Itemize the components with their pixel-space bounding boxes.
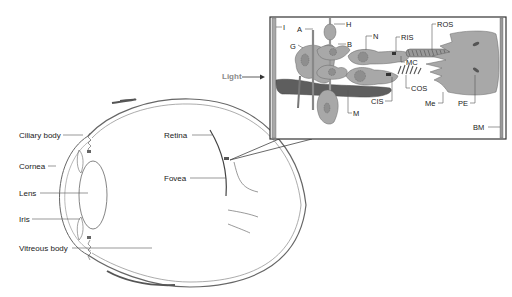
label-retina: Retina [164,131,188,140]
label-pe: PE [458,99,468,108]
label-vitreous-body: Vitreous body [19,244,68,253]
arrow-right-icon [260,75,265,80]
label-bm: BM [473,123,484,132]
eye-cross-section [60,99,307,287]
label-a: A [297,25,302,34]
label-light: Light [222,72,242,81]
label-cis: CIS [371,97,384,106]
label-cornea: Cornea [19,162,46,171]
label-iris: Iris [19,215,30,224]
retina-inset [270,17,506,139]
label-ris: RIS [401,33,414,42]
label-mc: MC [406,58,418,67]
label-i: I [283,23,285,32]
eye-label-leaders [32,135,226,248]
label-m: M [353,109,359,118]
label-lens: Lens [19,189,36,198]
label-ros: ROS [437,20,453,29]
label-b: B [347,40,352,49]
label-cos: COS [411,84,427,93]
label-me: Me [425,99,435,108]
callout-pointer [230,139,312,160]
eye-diagram: Ciliary body Cornea Lens Iris Vitreous b… [0,0,512,297]
label-ciliary-body: Ciliary body [19,131,61,140]
label-n: N [373,32,378,41]
label-fovea: Fovea [164,174,187,183]
label-h: H [346,20,351,29]
label-g: G [290,42,296,51]
